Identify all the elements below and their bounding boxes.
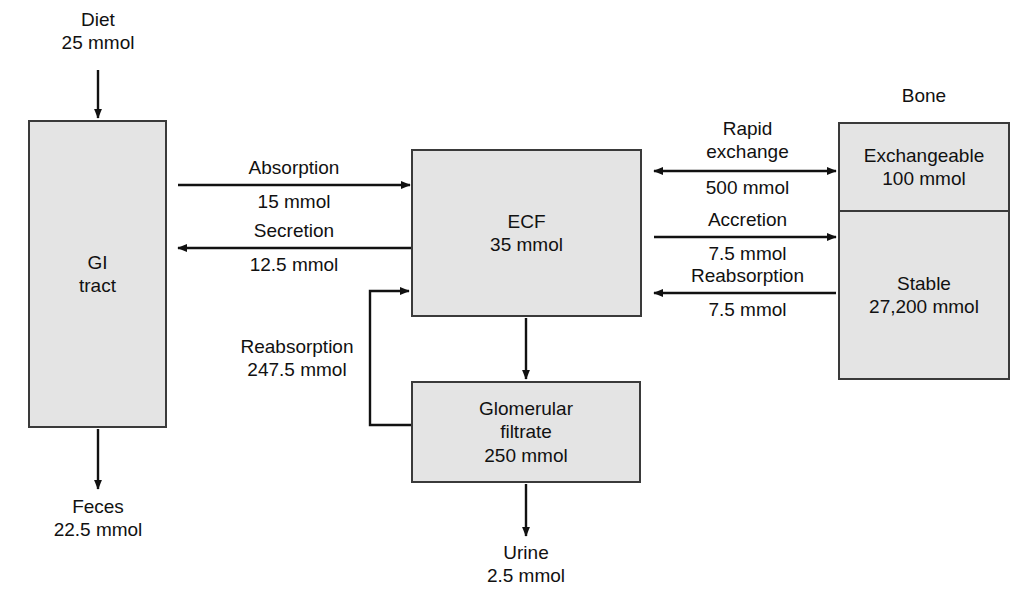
rapid-exchange-label-line2: exchange xyxy=(665,140,830,163)
rapid-exchange-label: Rapid xyxy=(665,117,830,140)
rapid-exchange-value: 500 mmol xyxy=(665,176,830,199)
feces-label: Feces xyxy=(18,495,178,518)
label-rapid-exchange-value: 500 mmol xyxy=(665,176,830,199)
label-rapid-exchange: Rapid exchange xyxy=(665,117,830,163)
absorption-label: Absorption xyxy=(194,156,394,179)
label-accretion: Accretion xyxy=(665,208,830,231)
diet-value: 25 mmol xyxy=(18,31,178,54)
secretion-value: 12.5 mmol xyxy=(194,253,394,276)
urine-label: Urine xyxy=(446,541,606,564)
label-bone-reabsorption: Reabsorption xyxy=(660,264,835,287)
feces-value: 22.5 mmol xyxy=(18,518,178,541)
bone-reabsorption-label: Reabsorption xyxy=(660,264,835,287)
box-ecf: ECF 35 mmol xyxy=(411,149,642,317)
label-accretion-value: 7.5 mmol xyxy=(665,242,830,265)
ecf-name: ECF xyxy=(508,210,546,233)
box-bone-stable: Stable 27,200 mmol xyxy=(840,212,1008,378)
bone-group-label: Bone xyxy=(838,84,1010,107)
label-tubular-reabsorption: Reabsorption 247.5 mmol xyxy=(222,335,372,381)
bone-exchangeable-value: 100 mmol xyxy=(882,167,965,190)
box-gi-tract: GI tract xyxy=(28,120,167,428)
label-secretion: Secretion xyxy=(194,219,394,242)
bone-label-text: Bone xyxy=(838,84,1010,107)
glomerular-value: 250 mmol xyxy=(484,444,567,467)
tubular-reabsorption-label: Reabsorption xyxy=(222,335,372,358)
label-feces: Feces 22.5 mmol xyxy=(18,495,178,541)
secretion-label: Secretion xyxy=(194,219,394,242)
glomerular-name: Glomerular xyxy=(479,397,573,420)
label-bone-reabsorption-value: 7.5 mmol xyxy=(660,298,835,321)
box-bone-exchangeable: Exchangeable 100 mmol xyxy=(840,124,1008,212)
label-absorption-value: 15 mmol xyxy=(194,190,394,213)
absorption-value: 15 mmol xyxy=(194,190,394,213)
label-diet: Diet 25 mmol xyxy=(18,8,178,54)
label-absorption: Absorption xyxy=(194,156,394,179)
label-secretion-value: 12.5 mmol xyxy=(194,253,394,276)
diet-label: Diet xyxy=(18,8,178,31)
accretion-value: 7.5 mmol xyxy=(665,242,830,265)
arrow-tubular-reabsorption-to-ecf xyxy=(370,291,411,425)
calcium-balance-diagram: GI tract ECF 35 mmol Glomerular filtrate… xyxy=(0,0,1035,613)
label-urine: Urine 2.5 mmol xyxy=(446,541,606,587)
bone-exchangeable-name: Exchangeable xyxy=(864,144,984,167)
gi-tract-name-line2: tract xyxy=(79,274,116,297)
ecf-value: 35 mmol xyxy=(490,233,563,256)
tubular-reabsorption-value: 247.5 mmol xyxy=(222,358,372,381)
gi-tract-name: GI xyxy=(87,251,107,274)
glomerular-name-line2: filtrate xyxy=(500,420,552,443)
bone-stable-value: 27,200 mmol xyxy=(869,295,979,318)
bone-stable-name: Stable xyxy=(897,272,951,295)
bone-reabsorption-value: 7.5 mmol xyxy=(660,298,835,321)
box-bone: Exchangeable 100 mmol Stable 27,200 mmol xyxy=(838,122,1010,380)
urine-value: 2.5 mmol xyxy=(446,564,606,587)
box-glomerular-filtrate: Glomerular filtrate 250 mmol xyxy=(411,381,641,483)
accretion-label: Accretion xyxy=(665,208,830,231)
